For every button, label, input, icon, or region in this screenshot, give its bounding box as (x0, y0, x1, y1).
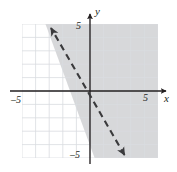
y-axis-tick-label-5: 5 (76, 21, 81, 31)
linear-inequality-graph: –5 5 5 –5 x y (0, 0, 177, 172)
x-axis-name-label: x (164, 93, 169, 104)
graph-canvas (0, 0, 177, 172)
x-axis-tick-label-negative-5: –5 (11, 95, 21, 105)
y-axis-name-label: y (95, 6, 100, 17)
x-axis-tick-label-5: 5 (143, 93, 148, 103)
solution-region-shading (22, 0, 177, 172)
y-axis-tick-label-negative-5: –5 (70, 150, 80, 160)
